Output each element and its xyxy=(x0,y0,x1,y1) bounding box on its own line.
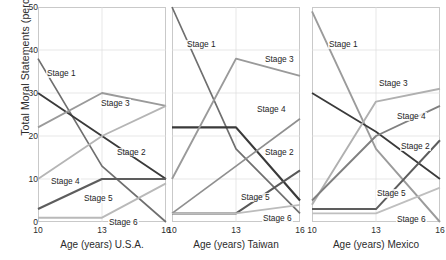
series-label-stage-3: Stage 3 xyxy=(100,99,131,108)
figure: 01020304050 Total Moral Statements (perc… xyxy=(0,0,446,260)
x-tick-label: 10 xyxy=(307,225,316,235)
series-label-stage-6: Stage 6 xyxy=(262,214,293,223)
series-label-stage-1: Stage 1 xyxy=(46,69,77,78)
series-label-stage-2: Stage 2 xyxy=(116,148,147,157)
x-axis-caption: Age (years) Taiwan xyxy=(172,239,300,250)
y-axis-title: Total Moral Statements (percent) xyxy=(19,0,31,153)
x-axis-caption: Age (years) Mexico xyxy=(312,239,440,250)
series-label-stage-1: Stage 1 xyxy=(186,40,217,49)
series-label-stage-4: Stage 4 xyxy=(396,112,427,121)
series-label-stage-4: Stage 4 xyxy=(50,177,81,186)
x-tick-label: 13 xyxy=(231,225,240,235)
x-tick-label: 10 xyxy=(33,225,42,235)
series-label-stage-3: Stage 3 xyxy=(378,79,409,88)
x-tick-label: 13 xyxy=(97,225,106,235)
x-axis-caption: Age (years) U.S.A. xyxy=(38,239,166,250)
series-label-stage-6: Stage 6 xyxy=(396,215,427,224)
series-label-stage-6: Stage 6 xyxy=(108,218,139,227)
series-label-stage-5: Stage 5 xyxy=(83,194,114,203)
series-label-stage-2: Stage 2 xyxy=(400,142,431,151)
chart-panel-taiwan: Stage 1Stage 2Stage 3Stage 4Stage 5Stage… xyxy=(172,7,300,222)
series-canvas xyxy=(38,7,166,222)
x-tick-label: 16 xyxy=(295,225,304,235)
x-tick-label: 10 xyxy=(167,225,176,235)
x-tick-label: 13 xyxy=(371,225,380,235)
series-label-stage-2: Stage 2 xyxy=(264,148,295,157)
x-tick-label: 16 xyxy=(435,225,444,235)
series-label-stage-3: Stage 3 xyxy=(264,55,295,64)
series-label-stage-4: Stage 4 xyxy=(256,105,287,114)
series-label-stage-1: Stage 1 xyxy=(328,40,359,49)
series-label-stage-5: Stage 5 xyxy=(376,189,407,198)
y-tick-label: 10 xyxy=(12,174,38,184)
chart-panel-usa: Stage 1Stage 2Stage 3Stage 4Stage 5Stage… xyxy=(38,7,166,222)
chart-panel-mexico: Stage 1Stage 2Stage 3Stage 4Stage 5Stage… xyxy=(312,7,440,222)
series-label-stage-5: Stage 5 xyxy=(240,193,271,202)
